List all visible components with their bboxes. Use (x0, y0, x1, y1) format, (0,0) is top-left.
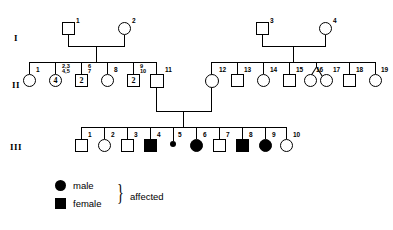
descent-line (242, 127, 243, 139)
descent-line (150, 127, 151, 139)
descent-line (196, 127, 197, 139)
descent-line (349, 62, 350, 74)
individual-ii-2345-id-line2: 4,5 (62, 69, 70, 75)
individual-iii-6-circle-affected (190, 139, 203, 152)
individual-ii-910-id-line2: 10 (140, 69, 146, 75)
individual-iii-3-square (121, 139, 134, 152)
generation-label-i: I (14, 33, 18, 43)
sibship-line (211, 62, 375, 63)
descent-line (127, 127, 128, 139)
individual-ii-11-id: 11 (165, 67, 172, 74)
individual-ii-12-circle (205, 74, 219, 88)
individual-ii-15-id: 15 (296, 67, 303, 74)
individual-iii-8-id: 8 (249, 132, 253, 139)
individual-iii-3-id: 3 (134, 132, 138, 139)
individual-ii-11-square (150, 74, 164, 88)
individual-ii-13-square (231, 74, 244, 87)
descent-line (173, 127, 174, 141)
individual-iii-9-circle-affected (259, 139, 272, 152)
individual-ii-18-square (343, 74, 356, 87)
descent-line (289, 62, 290, 74)
individual-i-4-id: 4 (333, 18, 337, 25)
individual-ii-16-circle (304, 74, 317, 87)
descent-line (219, 127, 220, 139)
individual-iii-1-square (75, 139, 88, 152)
individual-iii-9-id: 9 (272, 132, 276, 139)
individual-i-1-square (62, 22, 75, 35)
individual-iii-5-id: 5 (178, 132, 182, 139)
individual-ii-14-id: 14 (270, 67, 277, 74)
individual-iii-10-id: 10 (293, 132, 300, 139)
individual-ii-16-id: 16 (316, 67, 323, 74)
descent-line (286, 127, 287, 139)
descent-line (263, 62, 264, 74)
individual-ii-12-id: 12 (219, 67, 226, 74)
individual-ii-1-circle (23, 74, 36, 87)
descent-line (293, 46, 294, 62)
individual-ii-19-id: 19 (381, 67, 388, 74)
descent-line (265, 127, 266, 139)
pedigree-chart: I II III 1 2 3 4 1 4 2,3 4,5 2 6 7 8 2 9 (0, 0, 393, 230)
descent-line (96, 46, 97, 62)
individual-i-2-circle (118, 22, 131, 35)
sibship-count-label: 2 (75, 77, 88, 85)
individual-ii-67-id-line2: 7 (88, 69, 91, 75)
individual-iii-10-circle (280, 139, 293, 152)
descent-line (375, 62, 376, 74)
individual-ii-15-square (283, 74, 296, 87)
individual-iii-2-id: 2 (111, 132, 115, 139)
individual-iii-2-circle (98, 139, 111, 152)
individual-i-3-id: 3 (270, 18, 274, 25)
generation-label-iii: III (10, 142, 22, 152)
individual-ii-18-id: 18 (356, 67, 363, 74)
descent-line (325, 35, 326, 46)
individual-i-2-id: 2 (132, 18, 136, 25)
sibship-line (29, 62, 156, 63)
descent-line (156, 62, 157, 74)
legend-label-male: male (73, 180, 94, 191)
descent-line (262, 35, 263, 46)
individual-i-3-square (256, 22, 269, 35)
generation-label-ii: II (12, 80, 20, 90)
descent-line (104, 127, 105, 139)
individual-ii-13-id: 13 (244, 67, 251, 74)
descent-line (183, 111, 184, 127)
individual-ii-17-id: 17 (333, 67, 340, 74)
descent-line (55, 62, 56, 74)
legend-label-female: female (73, 198, 102, 209)
individual-ii-8-circle (101, 74, 114, 87)
individual-i-4-circle (319, 22, 332, 35)
descent-line (156, 88, 157, 111)
descent-line (29, 62, 30, 74)
descent-line (237, 62, 238, 74)
sibship-count-label: 4 (49, 77, 62, 85)
individual-iii-4-id: 4 (157, 132, 161, 139)
descent-line (107, 62, 108, 74)
individual-ii-19-circle (369, 74, 382, 87)
individual-i-1-id: 1 (76, 18, 80, 25)
filled-circle-icon (55, 180, 66, 191)
individual-iii-7-square (213, 139, 226, 152)
individual-iii-4-square-affected (144, 139, 157, 152)
filled-square-icon (55, 198, 66, 209)
legend-label-affected: affected (130, 191, 164, 202)
individual-ii-17-circle (320, 74, 333, 87)
descent-line (124, 35, 125, 46)
descent-line (133, 62, 134, 74)
descent-line (211, 62, 212, 74)
individual-iii-1-id: 1 (88, 132, 92, 139)
descent-line (81, 62, 82, 74)
individual-iii-5-dot (170, 141, 176, 147)
descent-line (68, 35, 69, 46)
individual-iii-8-square-affected (236, 139, 249, 152)
individual-ii-1-id: 1 (36, 67, 40, 74)
sibship-line (81, 127, 286, 128)
individual-iii-7-id: 7 (226, 132, 230, 139)
descent-line (81, 127, 82, 139)
legend-row-male: male (55, 180, 94, 191)
legend-row-female: female (55, 198, 102, 209)
descent-line (211, 88, 212, 111)
individual-ii-8-id: 8 (114, 67, 118, 74)
individual-ii-14-circle (257, 74, 270, 87)
sibship-count-label: 2 (127, 77, 140, 85)
